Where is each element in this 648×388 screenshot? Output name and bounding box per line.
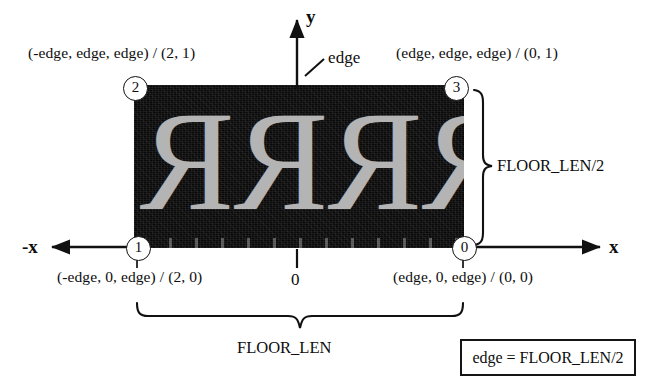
vertex-marker-1[interactable]: 1 [126,236,151,261]
vertex-label-0: (edge, 0, edge) / (0, 0) [393,268,533,286]
vertical-brace [474,90,492,245]
vertex-label-1: (-edge, 0, edge) / (2, 0) [57,268,202,286]
vertex-label-2: (-edge, edge, edge) / (2, 1) [28,44,195,62]
vertex-marker-3[interactable]: 3 [444,76,469,101]
diagram-canvas: R R R R [0,0,648,388]
legend-formula: edge = FLOOR_LEN/2 [472,349,623,367]
vertical-brace-label: FLOOR_LEN/2 [497,156,604,176]
floor-glyph: R [234,104,328,220]
origin-label: 0 [291,270,300,290]
floor-bottom-speckle [134,238,464,248]
vertex-label-3: (edge, edge, edge) / (0, 1) [396,44,558,62]
floor-glyph-row: R R R R [134,85,464,248]
vertex-marker-2[interactable]: 2 [123,76,148,101]
floor-glyph: R [328,104,422,220]
x-axis-label: x [609,236,619,258]
floor-quad-texture: R R R R [134,85,464,248]
legend-box: edge = FLOOR_LEN/2 [460,339,636,376]
horizontal-brace [137,303,463,328]
edge-annotation-label: edge [328,48,361,68]
y-axis-label: y [306,6,316,28]
floor-glyph: R [140,104,234,220]
vertex-marker-0[interactable]: 0 [452,236,477,261]
floor-glyph: R [422,104,464,220]
neg-x-axis-label: -x [22,236,38,258]
edge-leader-line [305,59,324,76]
vertex-leader-stubs [137,258,463,268]
horizontal-brace-label: FLOOR_LEN [237,338,331,358]
